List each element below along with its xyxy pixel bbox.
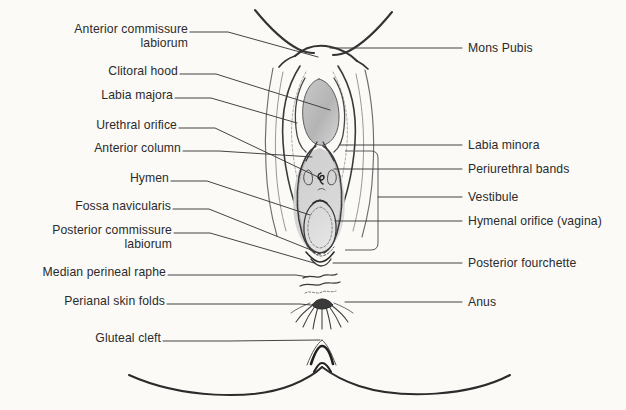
label-labia-majora: Labia majora bbox=[0, 88, 173, 103]
label-anterior-column: Anterior column bbox=[0, 141, 181, 156]
label-urethral-orifice: Urethral orifice bbox=[0, 118, 177, 133]
label-line-2: labiorum bbox=[0, 36, 188, 50]
leader-lines-right bbox=[330, 48, 462, 302]
label-hymen: Hymen bbox=[0, 171, 169, 186]
label-line-1: Posterior commissure bbox=[0, 223, 172, 237]
label-line-2: labiorum bbox=[0, 237, 172, 251]
label-line-1: Anterior commissure bbox=[0, 22, 188, 36]
anatomy-drawing bbox=[129, 10, 510, 395]
hymen-outline bbox=[304, 200, 336, 253]
median-perineal-raphe-2 bbox=[300, 282, 340, 286]
label-labia-minora: Labia minora bbox=[468, 138, 540, 153]
buttock-curve-left bbox=[129, 367, 322, 395]
mons-pubis-right-tail bbox=[357, 61, 368, 69]
label-line-1: Median perineal raphe bbox=[0, 265, 166, 280]
leader-posterior-commissure-labiorum bbox=[174, 233, 314, 263]
perianal-fold-5 bbox=[326, 307, 331, 329]
anatomical-diagram-figure: Anterior commissure labiorum Clitoral ho… bbox=[0, 0, 626, 410]
perianal-fold-6 bbox=[329, 306, 341, 327]
leader-fossa-navicularis bbox=[173, 209, 311, 250]
label-mons-pubis: Mons Pubis bbox=[468, 41, 533, 56]
label-posterior-commissure-labiorum: Posterior commissure labiorum bbox=[0, 223, 172, 251]
label-periurethral-bands: Periurethral bands bbox=[468, 162, 569, 177]
perianal-fold-2 bbox=[303, 306, 315, 327]
leader-perianal-skin-folds bbox=[167, 304, 311, 305]
label-line-1: Anterior column bbox=[0, 141, 181, 156]
label-line-1: Hymen bbox=[0, 171, 169, 186]
label-line-1: Gluteal cleft bbox=[0, 331, 161, 346]
label-anus: Anus bbox=[468, 295, 496, 310]
label-clitoral-hood: Clitoral hood bbox=[0, 64, 178, 79]
leader-median-perineal-raphe bbox=[168, 275, 308, 277]
label-posterior-fourchette: Posterior fourchette bbox=[468, 256, 576, 271]
label-line-1: Urethral orifice bbox=[0, 118, 177, 133]
clitoral-hood-shaded-oval bbox=[303, 79, 339, 145]
left-groin-stroke bbox=[255, 10, 314, 53]
label-hymenal-orifice-vagina: Hymenal orifice (vagina) bbox=[468, 214, 602, 229]
label-gluteal-cleft: Gluteal cleft bbox=[0, 331, 161, 346]
mons-pubis-left-tail bbox=[279, 56, 295, 67]
label-line-1: Clitoral hood bbox=[0, 64, 178, 79]
perianal-fold-9 bbox=[334, 303, 353, 313]
label-vestibule: Vestibule bbox=[468, 190, 518, 205]
perianal-fold-3 bbox=[313, 307, 318, 329]
label-line-1: Fossa navicularis bbox=[0, 199, 171, 214]
buttock-curve-right bbox=[322, 367, 510, 394]
label-perianal-skin-folds: Perianal skin folds bbox=[0, 294, 165, 309]
label-line-1: Labia majora bbox=[0, 88, 173, 103]
label-line-1: Perianal skin folds bbox=[0, 294, 165, 309]
label-fossa-navicularis: Fossa navicularis bbox=[0, 199, 171, 214]
leader-labia-majora bbox=[175, 98, 297, 123]
label-anterior-commissure-labiorum: Anterior commissure labiorum bbox=[0, 22, 188, 50]
right-groin-stroke bbox=[333, 12, 392, 55]
label-median-perineal-raphe: Median perineal raphe bbox=[0, 265, 166, 280]
leader-gluteal-cleft bbox=[163, 340, 320, 341]
median-perineal-raphe-3 bbox=[305, 291, 336, 293]
